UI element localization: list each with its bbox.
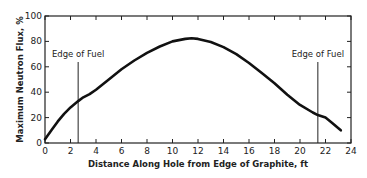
x-tick-label: 18 bbox=[269, 146, 281, 156]
y-axis-label: Maximum Neutron Flux, % bbox=[15, 16, 25, 143]
y-tick-label: 20 bbox=[31, 113, 43, 123]
x-tick-label: 10 bbox=[167, 146, 179, 156]
x-tick-label: 20 bbox=[294, 146, 306, 156]
y-tick-label: 80 bbox=[31, 36, 43, 46]
x-tick-label: 6 bbox=[119, 146, 125, 156]
edge-of-fuel-label: Edge of Fuel bbox=[52, 49, 104, 59]
y-tick-label: 100 bbox=[25, 11, 42, 21]
y-tick-label: 0 bbox=[36, 138, 42, 148]
x-tick-label: 22 bbox=[320, 146, 331, 156]
x-tick-label: 8 bbox=[144, 146, 150, 156]
x-tick-label: 16 bbox=[243, 146, 255, 156]
x-tick-label: 2 bbox=[68, 146, 74, 156]
x-axis-label: Distance Along Hole from Edge of Graphit… bbox=[88, 159, 308, 169]
plot-area: 024681012141618202224020406080100Distanc… bbox=[15, 11, 357, 169]
plot-frame bbox=[45, 16, 351, 143]
x-tick-label: 14 bbox=[218, 146, 230, 156]
y-tick-label: 40 bbox=[31, 87, 43, 97]
y-tick-label: 60 bbox=[31, 62, 43, 72]
x-tick-label: 4 bbox=[93, 146, 99, 156]
x-tick-label: 24 bbox=[345, 146, 357, 156]
x-tick-label: 0 bbox=[42, 146, 48, 156]
edge-of-fuel-label: Edge of Fuel bbox=[292, 49, 344, 59]
x-tick-label: 12 bbox=[192, 146, 203, 156]
neutron-flux-chart: 024681012141618202224020406080100Distanc… bbox=[0, 0, 367, 178]
